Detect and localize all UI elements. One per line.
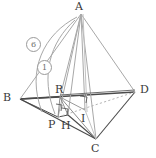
vertex-label-P: P [48,119,55,130]
right-angle-mark-I [80,96,87,103]
geometry-canvas [0,0,156,158]
edge-C-D [96,92,135,139]
vertex-label-B: B [3,92,11,103]
apex-edges [20,14,135,139]
vertex-label-H: H [61,120,71,131]
vertex-label-C: C [91,143,99,154]
vertex-label-I: I [81,113,85,124]
vertex-label-R: R [55,84,63,95]
vertex-label-A: A [75,1,83,12]
geometry-figure: A B C D R P H I 6 1 [0,0,156,158]
arc-annotation-one: 1 [37,60,52,75]
segment-R-H [60,97,68,115]
vertex-label-D: D [140,84,149,95]
arc-annotation-six: 6 [26,37,41,52]
segment-R-C [60,97,96,139]
base-edges [20,92,135,139]
